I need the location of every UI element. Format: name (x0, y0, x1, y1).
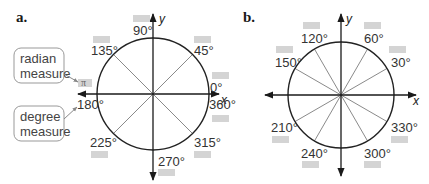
diagram-b-y-label: y (345, 12, 353, 26)
diagram-b-label: b. (243, 9, 255, 25)
answer-box-0[interactable] (212, 72, 229, 79)
label-330: 330° (391, 120, 418, 135)
answer-box-30[interactable] (389, 46, 406, 53)
callout-radian-measure: radian measure (14, 48, 78, 83)
answer-box-60[interactable] (364, 22, 381, 29)
callout-degree-line1: degree (20, 109, 60, 124)
label-90: 90° (133, 23, 153, 38)
unit-circle-figure: a. y x π 90° 135° (0, 0, 429, 184)
label-45: 45° (194, 43, 214, 58)
label-135: 135° (91, 43, 118, 58)
label-60: 60° (364, 31, 384, 46)
diagram-a-y-label: y (158, 12, 166, 26)
spoke-120 (315, 49, 342, 95)
spoke-225 (113, 94, 153, 134)
label-300: 300° (364, 146, 391, 161)
diagram-a-label: a. (16, 9, 28, 25)
spoke-240 (315, 95, 342, 141)
diagram-a: a. y x π 90° 135° (14, 9, 236, 180)
diagram-b-x-label: x (412, 94, 420, 108)
spoke-30 (341, 69, 387, 96)
callout-radian-line1: radian (20, 51, 56, 66)
spoke-60 (341, 49, 368, 95)
answer-box-300[interactable] (364, 161, 381, 168)
label-30: 30° (391, 55, 411, 70)
label-270: 270° (158, 154, 185, 169)
answer-box-120[interactable] (303, 22, 320, 29)
radian-180-value: π (81, 77, 86, 88)
answer-box-330[interactable] (391, 136, 408, 143)
label-315: 315° (194, 135, 221, 150)
answer-box-90[interactable] (133, 15, 150, 22)
spoke-330 (341, 95, 387, 122)
callout-degree-measure: degree measure (14, 106, 77, 141)
callout-degree-arrow (64, 107, 77, 119)
spoke-45 (153, 54, 193, 94)
answer-box-45[interactable] (194, 36, 211, 43)
answer-box-240[interactable] (302, 161, 319, 168)
spoke-135 (113, 54, 153, 94)
label-0: 0° (210, 80, 222, 95)
label-120: 120° (301, 31, 328, 46)
label-180: 180° (77, 97, 104, 112)
label-150: 150° (275, 55, 302, 70)
answer-box-210[interactable] (272, 136, 289, 143)
spoke-315 (153, 94, 193, 134)
diagram-b: b. y x 120° 60° 15 (243, 9, 420, 176)
spoke-150 (295, 69, 341, 96)
spoke-300 (341, 95, 368, 141)
answer-box-315[interactable] (194, 151, 211, 158)
label-240: 240° (301, 146, 328, 161)
answer-box-225[interactable] (91, 151, 108, 158)
answer-box-135[interactable] (93, 36, 110, 43)
label-360: 360° (209, 97, 236, 112)
answer-box-360[interactable] (212, 115, 229, 122)
callout-degree-line2: measure (20, 124, 71, 139)
answer-box-150[interactable] (276, 46, 293, 53)
spoke-210 (295, 95, 341, 122)
label-210: 210° (271, 120, 298, 135)
answer-box-270[interactable] (158, 169, 175, 176)
label-225: 225° (90, 135, 117, 150)
callout-radian-line2: measure (20, 66, 71, 81)
